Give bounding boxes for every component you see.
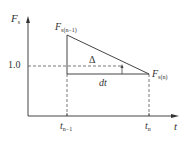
x-axis-label: t: [174, 121, 177, 132]
x-tick-right-label: tn: [145, 121, 151, 132]
y-tick-label: 1.0: [8, 60, 21, 70]
point-right-label: Fs(n): [152, 69, 167, 80]
point-top-label: Fs(n−1): [55, 22, 77, 33]
y-axis-label: Fs: [11, 13, 20, 25]
x-axis-arrow-icon: [171, 114, 179, 118]
x-tick-left-label: tn−1: [60, 121, 72, 132]
y-axis-arrow-icon: [26, 16, 30, 23]
delta-label: Δ: [89, 55, 95, 65]
dt-label: dt: [99, 78, 107, 88]
sloped-line: [67, 35, 149, 74]
